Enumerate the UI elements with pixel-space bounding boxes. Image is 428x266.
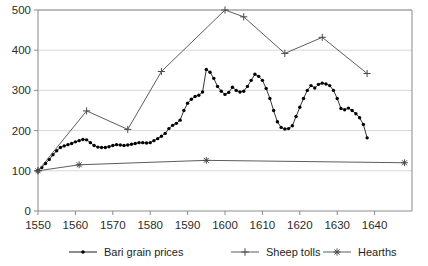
legend-item-sheep-tolls[interactable]: Sheep tolls [231, 246, 321, 258]
marker-dot [62, 144, 65, 147]
y-tick-label: 100 [12, 165, 31, 177]
marker-dot [134, 142, 137, 145]
marker-dot [96, 145, 99, 148]
x-tick-label: 1580 [137, 219, 163, 231]
marker-dot [294, 115, 297, 118]
marker-dot [235, 89, 238, 92]
marker-dot [347, 106, 350, 109]
marker-dot [89, 141, 92, 144]
x-tick-label: 1600 [212, 219, 238, 231]
x-tick-label: 1630 [324, 219, 350, 231]
marker-dot [257, 75, 260, 78]
marker-dot [175, 122, 178, 125]
marker-dot [190, 98, 193, 101]
marker-dot [201, 90, 204, 93]
marker-dot [81, 250, 85, 254]
marker-dot [298, 106, 301, 109]
marker-dot [220, 90, 223, 93]
marker-dot [119, 143, 122, 146]
marker-dot [242, 90, 245, 93]
marker-dot [279, 126, 282, 129]
marker-dot [249, 79, 252, 82]
x-tick-label: 1570 [100, 219, 126, 231]
marker-dot [70, 142, 73, 145]
marker-dot [77, 139, 80, 142]
x-tick-label: 1560 [63, 219, 89, 231]
marker-dot [171, 124, 174, 127]
marker-dot [92, 144, 95, 147]
marker-dot [205, 68, 208, 71]
marker-dot [182, 109, 185, 112]
marker-dot [186, 102, 189, 105]
marker-dot [276, 120, 279, 123]
marker-dot [268, 97, 271, 100]
marker-dot [362, 123, 365, 126]
y-tick-label: 300 [12, 84, 31, 96]
marker-dot [246, 85, 249, 88]
legend: Bari grain pricesSheep tollsHearths [69, 246, 397, 258]
marker-dot [208, 71, 211, 74]
marker-dot [287, 127, 290, 130]
legend-item-hearths[interactable]: Hearths [323, 246, 397, 258]
marker-dot [145, 141, 148, 144]
y-tick-label: 400 [12, 44, 31, 56]
chart-container: 0100200300400500155015601570158015901600… [0, 0, 428, 266]
marker-dot [291, 124, 294, 127]
legend-label: Sheep tolls [266, 246, 321, 258]
y-tick-label: 200 [12, 125, 31, 137]
x-tick-label: 1640 [362, 219, 388, 231]
marker-dot [264, 87, 267, 90]
marker-dot [137, 141, 140, 144]
legend-item-bari-grain-prices[interactable]: Bari grain prices [69, 246, 184, 258]
x-tick-label: 1550 [25, 219, 51, 231]
marker-dot [324, 82, 327, 85]
marker-dot [212, 77, 215, 80]
marker-dot [81, 138, 84, 141]
marker-dot [66, 143, 69, 146]
marker-dot [283, 127, 286, 130]
marker-dot [238, 90, 241, 93]
marker-dot [309, 84, 312, 87]
marker-dot [178, 118, 181, 121]
marker-dot [149, 141, 152, 144]
marker-dot [343, 108, 346, 111]
marker-dot [350, 109, 353, 112]
marker-dot [227, 91, 230, 94]
legend-label: Bari grain prices [104, 246, 184, 258]
marker-dot [302, 97, 305, 100]
marker-dot [100, 146, 103, 149]
series-bari-grain-prices [36, 68, 369, 173]
y-tick-label: 0 [25, 205, 31, 217]
x-tick-label: 1620 [287, 219, 313, 231]
y-axis: 0100200300400500 [12, 4, 38, 217]
x-tick-label: 1610 [250, 219, 276, 231]
marker-dot [126, 143, 129, 146]
marker-dot [223, 93, 226, 96]
series-hearths [35, 157, 408, 174]
marker-dot [163, 132, 166, 135]
plot-frame [38, 10, 412, 211]
marker-dot [339, 107, 342, 110]
marker-dot [358, 116, 361, 119]
marker-dot [85, 138, 88, 141]
series-line [38, 160, 405, 170]
marker-dot [313, 86, 316, 89]
marker-dot [193, 95, 196, 98]
marker-dot [167, 127, 170, 130]
marker-dot [317, 83, 320, 86]
marker-dot [253, 73, 256, 76]
marker-dot [122, 144, 125, 147]
marker-dot [336, 97, 339, 100]
marker-dot [130, 143, 133, 146]
marker-dot [306, 89, 309, 92]
marker-dot [197, 94, 200, 97]
y-tick-label: 500 [12, 4, 31, 16]
marker-dot [115, 143, 118, 146]
marker-dot [365, 136, 368, 139]
marker-dot [111, 144, 114, 147]
marker-dot [216, 85, 219, 88]
marker-dot [261, 79, 264, 82]
marker-dot [321, 81, 324, 84]
marker-dot [156, 137, 159, 140]
legend-label: Hearths [358, 246, 397, 258]
